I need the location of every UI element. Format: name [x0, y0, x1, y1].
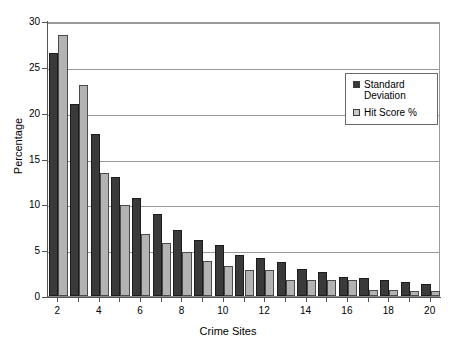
- bar-3-series-0: [70, 104, 79, 297]
- x-axis-tick: [306, 298, 307, 302]
- x-axis-tick-label: 12: [249, 305, 279, 316]
- bar-20-series-1: [431, 291, 440, 297]
- bar-8-series-0: [173, 230, 182, 296]
- bar-12-series-1: [265, 270, 274, 296]
- x-axis-title: Crime Sites: [0, 325, 456, 337]
- bar-9-series-0: [194, 240, 203, 296]
- x-axis-tick-label: 20: [415, 305, 445, 316]
- x-axis-tick: [223, 298, 224, 302]
- x-axis-tick-label: 6: [125, 305, 155, 316]
- legend-label-standard-deviation: Standard Deviation: [364, 79, 406, 101]
- x-axis-tick: [161, 298, 162, 302]
- bar-17-series-0: [359, 278, 368, 296]
- x-axis-tick: [430, 298, 431, 302]
- bar-6-series-1: [141, 234, 150, 296]
- x-axis-tick-label: 16: [332, 305, 362, 316]
- x-axis-tick-label: 18: [373, 305, 403, 316]
- gridline: [48, 23, 439, 24]
- x-axis-tick-label: 8: [166, 305, 196, 316]
- bar-13-series-0: [277, 262, 286, 296]
- legend: Standard Deviation Hit Score %: [345, 73, 438, 125]
- bar-15-series-1: [327, 280, 336, 296]
- x-axis-tick-label: 14: [291, 305, 321, 316]
- bar-9-series-1: [203, 261, 212, 296]
- x-axis-tick: [388, 298, 389, 302]
- legend-label-hit-score: Hit Score %: [364, 107, 417, 118]
- bar-7-series-1: [162, 243, 171, 296]
- bar-4-series-1: [100, 173, 109, 296]
- bar-2-series-1: [58, 35, 67, 296]
- bar-11-series-1: [245, 270, 254, 296]
- x-axis-tick: [326, 298, 327, 302]
- y-axis-tick-label: 30: [18, 17, 40, 27]
- x-axis-tick: [202, 298, 203, 302]
- x-axis-tick: [347, 298, 348, 302]
- x-axis-tick: [285, 298, 286, 302]
- y-axis-tick-label: 5: [18, 246, 40, 256]
- bar-8-series-1: [182, 252, 191, 296]
- x-axis-tick: [78, 298, 79, 302]
- y-axis-line: [47, 21, 48, 298]
- y-axis-tick-label: 0: [18, 292, 40, 302]
- bar-13-series-1: [286, 280, 295, 296]
- bar-19-series-1: [410, 291, 419, 297]
- legend-item-standard-deviation: Standard Deviation: [353, 79, 431, 101]
- bar-7-series-0: [153, 214, 162, 296]
- y-axis-title: Percentage: [12, 76, 24, 216]
- bar-4-series-0: [91, 134, 100, 296]
- x-axis-tick: [368, 298, 369, 302]
- bar-16-series-1: [348, 280, 357, 296]
- y-axis-tick: [42, 251, 47, 252]
- bar-2-series-0: [49, 53, 58, 296]
- bar-14-series-0: [297, 269, 306, 296]
- bar-chart: 051015202530 2468101214161820 Percentage…: [0, 0, 456, 353]
- x-axis-tick: [181, 298, 182, 302]
- bar-20-series-0: [421, 284, 430, 296]
- plot-area: [47, 22, 440, 297]
- bar-18-series-0: [380, 280, 389, 297]
- bar-16-series-0: [339, 277, 348, 296]
- bar-12-series-0: [256, 258, 265, 296]
- x-axis-tick-label: 4: [84, 305, 114, 316]
- x-axis-tick-label: 2: [42, 305, 72, 316]
- y-axis-tick-label: 25: [18, 63, 40, 73]
- x-axis-tick: [57, 298, 58, 302]
- bar-3-series-1: [79, 85, 88, 296]
- x-axis-tick-label: 10: [208, 305, 238, 316]
- bar-5-series-1: [120, 205, 129, 296]
- bar-10-series-1: [224, 266, 233, 296]
- x-axis-tick: [140, 298, 141, 302]
- legend-swatch-icon-hit-score: [353, 109, 360, 116]
- y-axis-tick: [42, 160, 47, 161]
- bar-14-series-1: [307, 280, 316, 296]
- x-axis-tick: [264, 298, 265, 302]
- y-axis-tick: [42, 205, 47, 206]
- gridline: [48, 69, 439, 70]
- x-axis-tick: [244, 298, 245, 302]
- gridline: [48, 161, 439, 162]
- bar-15-series-0: [318, 272, 327, 296]
- bar-10-series-0: [215, 245, 224, 296]
- bar-17-series-1: [369, 290, 378, 296]
- bar-11-series-0: [235, 255, 244, 296]
- y-axis-tick: [42, 22, 47, 23]
- bar-5-series-0: [111, 177, 120, 296]
- x-axis-tick: [99, 298, 100, 302]
- x-axis-tick: [119, 298, 120, 302]
- y-axis-tick: [42, 114, 47, 115]
- bar-19-series-0: [401, 282, 410, 296]
- bar-6-series-0: [132, 198, 141, 296]
- y-axis-tick: [42, 68, 47, 69]
- legend-swatch-icon-standard-deviation: [353, 81, 360, 88]
- y-axis-tick: [42, 297, 47, 298]
- bar-18-series-1: [389, 290, 398, 296]
- legend-item-hit-score: Hit Score %: [353, 107, 431, 118]
- x-axis-tick: [409, 298, 410, 302]
